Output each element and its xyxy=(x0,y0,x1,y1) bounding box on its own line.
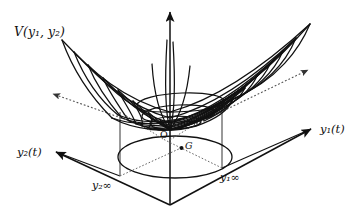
origin-label-text: O xyxy=(160,129,168,140)
y1-axis-label-text: y₁(t) xyxy=(320,122,345,136)
y1-infinity-label-text: y₁∞ xyxy=(220,171,240,184)
equilibrium-point-marker xyxy=(180,146,184,150)
dotted-y2-to-G xyxy=(120,148,181,176)
dotted-G-to-O xyxy=(163,139,181,148)
equilibrium-label: G xyxy=(185,141,193,151)
y2-axis-line xyxy=(56,152,170,205)
y2-axis-label: y₂(t) xyxy=(17,147,42,159)
G-dot xyxy=(180,146,184,150)
y2-infinity-label-text: y₂∞ xyxy=(92,179,112,192)
base-plane-axes xyxy=(56,129,311,205)
base-edge-left xyxy=(56,152,120,176)
origin-label: O xyxy=(160,130,168,140)
y2-infinity-label: y₂∞ xyxy=(92,180,112,191)
base-edge-right xyxy=(222,129,311,168)
v-axis-label: V(y₁, y₂) xyxy=(14,26,65,39)
equilibrium-label-text: G xyxy=(185,140,193,151)
y1-infinity-label: y₁∞ xyxy=(220,172,240,183)
y1-axis-label: y₁(t) xyxy=(320,124,345,136)
dotted-y1-to-G xyxy=(181,148,222,168)
paraboloid-surface-mesh xyxy=(62,24,310,130)
figure-canvas: V(y₁, y₂) y₂(t) y₁(t) y₂∞ y₁∞ O G xyxy=(0,0,359,215)
base-ellipse-group xyxy=(118,136,232,178)
base-ellipse xyxy=(118,136,232,178)
y2-axis-label-text: y₂(t) xyxy=(17,145,42,159)
v-axis-label-text: V(y₁, y₂) xyxy=(14,24,65,39)
